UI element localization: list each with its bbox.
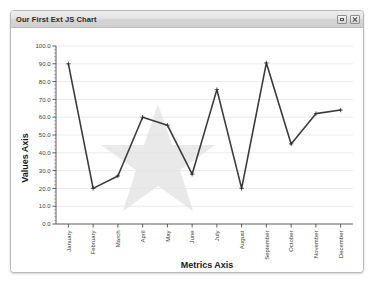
x-tick-label: May <box>165 231 171 242</box>
chart-series <box>66 61 343 191</box>
star-watermark-icon <box>101 104 215 211</box>
chart-gridlines <box>56 46 353 206</box>
y-axis-title: Values Axis <box>20 133 30 183</box>
window-titlebar: Our First Ext JS Chart <box>11 11 363 28</box>
x-axis-title: Metrics Axis <box>181 260 234 270</box>
data-point-marker[interactable] <box>264 61 268 65</box>
x-tick-label: December <box>338 231 344 259</box>
y-tick-label: 20.0 <box>39 186 51 192</box>
y-tick-label: 40.0 <box>39 150 51 156</box>
y-tick-label: 80.0 <box>39 79 51 85</box>
window-controls <box>337 15 360 24</box>
x-axis-tick-labels: JanuaryFebruaryMarchAprilMayJuneJulyAugu… <box>66 230 344 260</box>
data-point-marker[interactable] <box>215 87 219 91</box>
y-tick-label: 90.0 <box>39 61 51 67</box>
chart-body: 0.010.020.030.040.050.060.070.080.090.01… <box>11 28 363 273</box>
y-tick-label: 60.0 <box>39 114 51 120</box>
x-tick-label: April <box>140 231 146 243</box>
y-tick-label: 0.0 <box>42 221 51 227</box>
x-tick-label: August <box>239 230 245 249</box>
y-tick-label: 10.0 <box>39 203 51 209</box>
y-tick-label: 100.0 <box>35 43 51 49</box>
restore-icon[interactable] <box>337 15 347 24</box>
window-title: Our First Ext JS Chart <box>16 15 97 24</box>
data-point-marker[interactable] <box>239 186 243 190</box>
x-tick-label: January <box>66 231 72 252</box>
x-tick-label: June <box>189 230 195 244</box>
chart-window: Our First Ext JS Chart 0.010.020.030.040… <box>10 10 364 273</box>
x-tick-label: July <box>214 231 220 242</box>
close-icon[interactable] <box>350 15 360 24</box>
x-tick-label: November <box>313 231 319 259</box>
y-tick-label: 70.0 <box>39 97 51 103</box>
y-tick-label: 30.0 <box>39 168 51 174</box>
y-axis-tick-labels: 0.010.020.030.040.050.060.070.080.090.01… <box>35 43 51 227</box>
x-tick-label: March <box>115 231 121 248</box>
data-point-marker[interactable] <box>66 62 70 66</box>
x-tick-label: October <box>288 230 294 251</box>
line-chart: 0.010.020.030.040.050.060.070.080.090.01… <box>11 28 363 273</box>
x-tick-label: September <box>264 231 270 260</box>
x-tick-label: February <box>90 231 96 255</box>
y-tick-label: 50.0 <box>39 132 51 138</box>
data-point-marker[interactable] <box>140 115 144 119</box>
data-point-marker[interactable] <box>338 108 342 112</box>
